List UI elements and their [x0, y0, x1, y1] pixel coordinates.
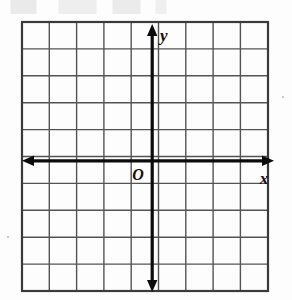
- figure-page: y x O: [0, 0, 292, 300]
- y-axis-label: y: [158, 26, 168, 45]
- coordinate-plane-svg: y x O: [0, 0, 292, 300]
- origin-label: O: [132, 166, 144, 183]
- coordinate-plane-figure: y x O: [0, 0, 292, 300]
- x-axis-label: x: [259, 169, 269, 188]
